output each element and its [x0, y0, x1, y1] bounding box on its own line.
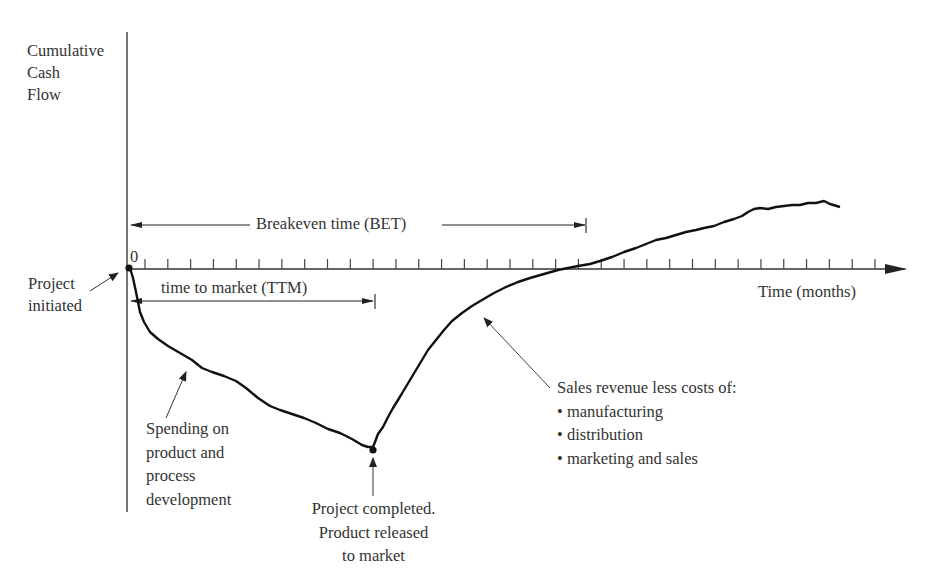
- spending-line: Spending on: [146, 417, 231, 441]
- y-axis-label: Cumulative Cash Flow: [27, 40, 104, 106]
- spending-line: development: [146, 488, 231, 512]
- project-completed-line: Project completed.: [300, 497, 447, 521]
- sales-heading: Sales revenue less costs of:: [557, 376, 737, 400]
- sales-item: • manufacturing: [557, 400, 737, 424]
- y-axis-label-line: Cumulative: [27, 40, 104, 62]
- project-initiated-pointer: [90, 273, 118, 291]
- project-initiated-line: initiated: [28, 295, 82, 317]
- sales-label: Sales revenue less costs of: • manufactu…: [557, 376, 737, 470]
- project-completed-label: Project completed. Product released to m…: [300, 497, 447, 568]
- x-axis-ticks: [145, 259, 875, 269]
- y-axis-label-line: Flow: [27, 84, 104, 106]
- project-initiated-label: Project initiated: [28, 273, 82, 317]
- origin-label: 0: [130, 246, 138, 268]
- x-axis-label: Time (months): [758, 281, 856, 303]
- spending-line: process: [146, 464, 231, 488]
- spending-line: product and: [146, 441, 231, 465]
- product-release-point: [369, 446, 376, 453]
- y-axis-label-line: Cash: [27, 62, 104, 84]
- sales-item: • marketing and sales: [557, 447, 737, 471]
- project-completed-line: Product released: [300, 521, 447, 545]
- ttm-label: time to market (TTM): [161, 277, 307, 299]
- project-initiated-line: Project: [28, 273, 82, 295]
- spending-label: Spending on product and process developm…: [146, 417, 231, 511]
- bet-label: Breakeven time (BET): [256, 213, 406, 235]
- sales-item: • distribution: [557, 423, 737, 447]
- sales-pointer: [484, 318, 550, 388]
- spending-pointer: [166, 372, 186, 418]
- project-completed-line: to market: [300, 544, 447, 568]
